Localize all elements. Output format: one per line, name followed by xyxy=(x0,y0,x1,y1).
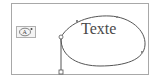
path-node[interactable] xyxy=(141,51,143,53)
path-node[interactable] xyxy=(76,20,78,22)
path-anchor-point[interactable] xyxy=(59,35,63,39)
path-start-handle[interactable] xyxy=(59,70,63,74)
path-canvas xyxy=(0,0,155,82)
path-text[interactable]: Texte xyxy=(81,21,116,37)
path-node[interactable] xyxy=(116,16,118,18)
